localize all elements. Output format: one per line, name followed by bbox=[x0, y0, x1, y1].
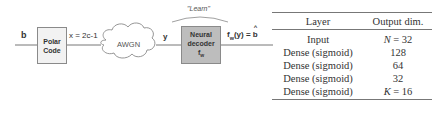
neural-decoder-block: Neural decoder fw bbox=[181, 26, 221, 64]
output-label: fw(y) = ^b bbox=[227, 30, 258, 41]
table-row: Dense (sigmoid) 64 bbox=[272, 59, 432, 72]
layer-table: Layer Output dim. Input N = 32 Dense (si… bbox=[272, 12, 432, 100]
encoder-line1: Polar bbox=[43, 37, 61, 46]
cell-dim-val: 32 bbox=[393, 73, 404, 84]
table-row: Dense (sigmoid) 32 bbox=[272, 72, 432, 85]
encoder-output-label: x = 2c-1 bbox=[69, 31, 98, 40]
output-func-rest: (y) = bbox=[234, 30, 253, 39]
cell-layer: Input bbox=[272, 30, 364, 47]
cell-dim-val: 128 bbox=[390, 47, 406, 58]
cell-dim-val: = 16 bbox=[391, 86, 413, 97]
cell-layer: Dense (sigmoid) bbox=[272, 59, 364, 72]
header-output-dim: Output dim. bbox=[364, 13, 432, 30]
decoder-line2: decoder bbox=[187, 39, 214, 48]
table-row: Input N = 32 bbox=[272, 30, 432, 47]
learn-arc bbox=[172, 17, 228, 22]
cell-dim: 32 bbox=[364, 72, 432, 85]
learn-label: "Learn" bbox=[187, 5, 210, 12]
cell-layer: Dense (sigmoid) bbox=[272, 85, 364, 100]
input-label: b bbox=[21, 30, 27, 40]
output-bhat: ^b bbox=[253, 30, 258, 39]
cell-dim: N = 32 bbox=[364, 30, 432, 47]
channel-output-label: y bbox=[163, 32, 167, 41]
decoder-line1: Neural bbox=[187, 30, 214, 39]
cell-dim: K = 16 bbox=[364, 85, 432, 100]
cell-dim: 64 bbox=[364, 59, 432, 72]
cell-dim-val: 64 bbox=[393, 60, 404, 71]
table-row: Dense (sigmoid) 128 bbox=[272, 46, 432, 59]
cell-layer: Dense (sigmoid) bbox=[272, 46, 364, 59]
channel-label: AWGN bbox=[117, 40, 140, 49]
decoder-func-sub: w bbox=[200, 52, 204, 58]
cell-dim: 128 bbox=[364, 46, 432, 59]
cell-dim-val: = 32 bbox=[391, 34, 413, 45]
encoder-line2: Code bbox=[43, 46, 61, 55]
output-bhat-letter: b bbox=[253, 30, 258, 39]
cell-layer: Dense (sigmoid) bbox=[272, 72, 364, 85]
polar-code-block: Polar Code bbox=[37, 27, 67, 64]
cell-dim-var: N bbox=[384, 34, 391, 45]
table-row: Dense (sigmoid) K = 16 bbox=[272, 85, 432, 100]
header-layer: Layer bbox=[272, 13, 364, 30]
cell-dim-var: K bbox=[384, 86, 391, 97]
